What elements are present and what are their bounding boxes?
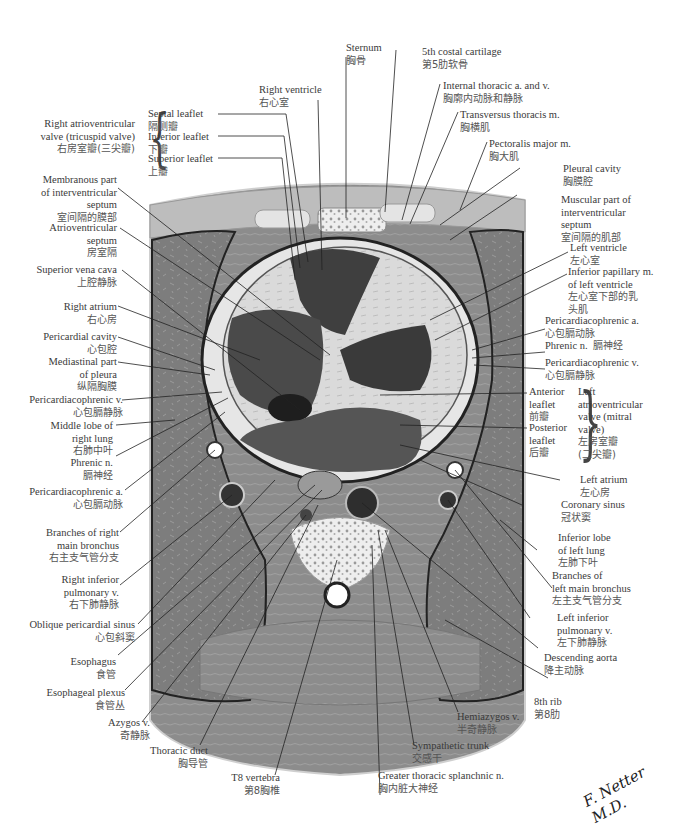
label-inferior-lobe-left: Inferior lobe of left lung 左肺下叶 [558,532,611,570]
label-mediastinal-pleura: Mediastinal part of pleura 纵隔胸膜 [48,356,117,394]
label-phrenic-right: Phrenic n. 膈神经 [70,457,113,482]
spinal-canal [325,583,349,607]
label-hemiazygos: Hemiazygos v. 半奇静脉 [457,711,519,736]
label-right-ventricle: Right ventricle 右心室 [259,84,322,109]
label-pleural-cavity: Pleural cavity 胸膜腔 [563,163,621,188]
label-superior-leaflet: Superior leaflet 上瓣 [148,153,213,178]
label-av-septum: Atrioventricular septum 房室隔 [49,222,117,260]
label-pericardiacophrenic-v-right: Pericardiacophrenic v. 心包膈静脉 [29,394,123,419]
label-muscular-septum: Muscular part of interventricular septum… [561,194,631,244]
label-left-atrium: Left atrium 左心房 [580,474,628,499]
label-esophagus: Esophagus 食管 [71,656,117,681]
label-septal-leaflet: Septal leaflet 隔侧瓣 [148,108,203,133]
label-posterior-leaflet: Posterior leaflet 后瓣 [529,422,567,460]
label-8th-rib: 8th rib 第8肋 [534,696,562,721]
label-greater-splanchnic: Greater thoracic splanchnic n. 胸内脏大神经 [378,770,504,795]
label-tricuspid-valve: Right atrioventricular valve (tricuspid … [41,118,135,156]
label-pericardiacophrenic-v-left: Pericardiacophrenic v. 心包膈静脉 [545,357,639,382]
label-middle-lobe: Middle lobe of right lung 右肺中叶 [51,420,113,458]
label-sternum: Sternum 胸骨 [346,42,382,67]
label-pericardiacophrenic-a-left: Pericardiacophrenic a. 心包膈动脉 [545,315,639,340]
label-left-inf-pulmonary-v: Left inferior pulmonary v. 左下肺静脉 [557,612,612,650]
label-inferior-papillary: Inferior papillary m. of left ventricle … [568,266,653,316]
label-esophageal-plexus: Esophageal plexus 食管丛 [47,687,125,712]
label-sympathetic-trunk: Sympathetic trunk 交感干 [412,740,489,765]
label-azygos: Azygos v. 奇静脉 [108,717,150,742]
label-transversus-thoracis: Transversus thoracis m. 胸横肌 [460,109,560,134]
label-left-bronchus: Branches of left main bronchus 左主支气管分支 [552,570,631,608]
label-descending-aorta: Descending aorta 降主动脉 [544,652,617,677]
label-internal-thoracic: Internal thoracic a. and v. 胸廓内动脉和静脉 [443,80,550,105]
label-right-bronchus: Branches of right main bronchus 右主支气管分支 [46,527,119,565]
sternum [318,208,386,232]
label-thoracic-duct: Thoracic duct 胸导管 [150,745,208,770]
label-pectoralis-major: Pectoralis major m. 胸大肌 [489,138,571,163]
label-mitral-valve: Left atrioventricular valve (mitral valv… [578,386,643,461]
label-t8-vertebra: T8 vertebra 第8胸椎 [231,772,280,797]
label-anterior-leaflet: Anterior leaflet 前瓣 [529,386,565,424]
label-oblique-sinus: Oblique pericardial sinus 心包斜窦 [29,619,135,644]
label-svc: Superior vena cava 上腔静脉 [37,264,117,289]
label-membranous-septum: Membranous part of interventricular sept… [41,174,117,224]
costal-cartilage-left [380,204,435,222]
label-phrenic-left: Phrenic n. 膈神经 [545,340,623,353]
label-5th-costal-cartilage: 5th costal cartilage 第5肋软骨 [422,46,501,71]
label-coronary-sinus: Coronary sinus 冠状窦 [561,499,625,524]
label-right-inf-pulmonary-v: Right inferior pulmonary v. 右下肺静脉 [62,574,119,612]
label-pericardial-cavity: Pericardial cavity 心包腔 [43,331,117,356]
label-left-ventricle: Left ventricle 左心室 [570,242,627,267]
svc-lumen [268,394,312,422]
label-pericardiacophrenic-a-right: Pericardiacophrenic a. 心包膈动脉 [29,486,123,511]
esophagus [298,471,342,499]
label-right-atrium: Right atrium 右心房 [64,301,117,326]
